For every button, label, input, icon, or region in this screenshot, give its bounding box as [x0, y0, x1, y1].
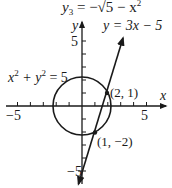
- line-curve: [79, 38, 124, 184]
- x-axis-label: x: [159, 88, 167, 103]
- x-tick-label-5: 5: [141, 108, 148, 123]
- line-equation-label: y = 3x − 5: [101, 18, 162, 33]
- y-tick-label-5: 5: [71, 34, 78, 49]
- graph-figure: y3 = −√5 − x2 y x −5 5 5 −5: [0, 0, 172, 188]
- y-axis-label: y: [70, 18, 79, 33]
- x-tick-label-neg5: −5: [6, 108, 21, 123]
- top-equation: y3 = −√5 − x2: [60, 0, 141, 17]
- point-label-2-1: (2, 1): [110, 85, 138, 100]
- point-label-1-neg2: (1, −2): [97, 134, 133, 149]
- circle-equation-label: x2 + y2 = 5: [7, 68, 68, 85]
- y-tick-label-neg5: −5: [67, 164, 82, 179]
- point-2-1: [105, 91, 109, 95]
